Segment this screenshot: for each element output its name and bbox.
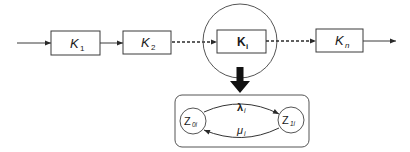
block-ki: K i — [217, 30, 266, 53]
block-kn: K n — [316, 29, 363, 52]
block-ki-subscript: i — [246, 42, 248, 51]
state-z0i-symbol: Z — [184, 115, 191, 127]
state-z1i-subscript: 1i — [290, 120, 296, 127]
state-z0i-subscript: 0i — [192, 121, 198, 128]
block-k1-symbol: K — [70, 36, 80, 51]
block-k2: K 2 — [123, 31, 171, 54]
block-ki-symbol: K — [237, 35, 246, 49]
block-k2-symbol: K — [141, 35, 151, 50]
state-z0i: Z 0i — [180, 108, 206, 134]
block-kn-symbol: K — [335, 33, 345, 48]
state-z1i: Z 1i — [278, 107, 304, 133]
block-k1: K 1 — [51, 31, 100, 55]
transition-lambda-symbol: λ — [237, 101, 243, 113]
block-kn-subscript: n — [345, 41, 350, 50]
block-k1-subscript: 1 — [80, 44, 85, 53]
expand-down-arrow-icon — [230, 67, 250, 93]
block-k2-subscript: 2 — [151, 43, 156, 52]
transition-mu-symbol: μ — [236, 124, 243, 136]
state-z1i-symbol: Z — [282, 114, 289, 126]
reliability-block-diagram: K 1 K 2 K i K n λ i μ i Z 0i — [0, 0, 410, 152]
